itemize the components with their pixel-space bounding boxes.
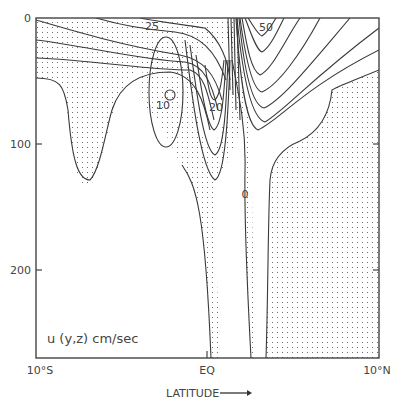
x-tick-label-10n: 10°N bbox=[363, 364, 391, 377]
x-tick-label-10s: 10°S bbox=[27, 364, 53, 377]
y-tick-label-200: 200 bbox=[10, 264, 31, 277]
contour-label-20: 20 bbox=[209, 101, 223, 114]
x-tick-label-eq: EQ bbox=[199, 364, 215, 377]
contour-chart: 0 100 200 10°S EQ 10°N 25 50 10 20 0 u (… bbox=[0, 0, 404, 404]
contour-label-0: 0 bbox=[242, 188, 249, 201]
y-tick-label-0: 0 bbox=[24, 12, 31, 25]
arrow-right-icon bbox=[220, 390, 252, 396]
contour-label-10: 10 bbox=[156, 99, 170, 112]
x-axis-title: LATITUDE bbox=[166, 387, 219, 400]
contour-label-50: 50 bbox=[259, 21, 273, 34]
y-tick-label-100: 100 bbox=[10, 138, 31, 151]
variable-annotation: u (y,z) cm/sec bbox=[47, 331, 138, 346]
contour-label-25: 25 bbox=[145, 20, 159, 33]
